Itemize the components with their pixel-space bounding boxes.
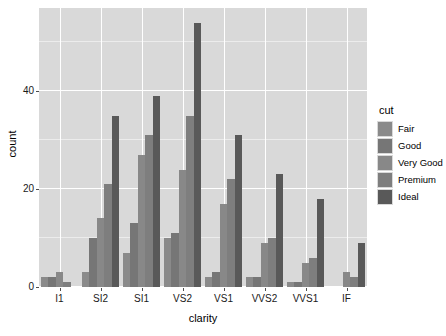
y-axis-tick-label: 20 — [10, 184, 34, 194]
bar — [309, 258, 317, 287]
bar — [63, 282, 71, 287]
legend-item: Very Good — [377, 154, 446, 171]
bar — [276, 174, 284, 287]
legend-swatch-icon — [378, 190, 392, 204]
x-axis-tick-label: IF — [322, 293, 372, 304]
legend-item-label: Fair — [398, 123, 414, 134]
gridline-major-x — [60, 8, 61, 287]
x-axis-tick-mark — [224, 288, 225, 291]
legend-item: Premium — [377, 171, 446, 188]
y-axis-tick-label: 40 — [10, 86, 34, 96]
legend-key — [377, 138, 393, 154]
y-axis-title: count — [6, 114, 18, 174]
legend-items: FairGoodVery GoodPremiumIdeal — [377, 120, 446, 205]
bar — [153, 96, 161, 287]
legend-swatch-icon — [378, 173, 392, 187]
y-axis-tick-mark — [36, 287, 39, 288]
chart-figure: count 02040 I1SI2SI1VS2VS1VVS2VVS1IF cla… — [0, 0, 446, 336]
x-axis-title: clarity — [39, 312, 367, 324]
bar — [205, 277, 213, 287]
bar — [123, 253, 131, 287]
y-axis-tick-label: 0 — [10, 282, 34, 292]
bar — [104, 184, 112, 287]
x-axis-tick-mark — [60, 288, 61, 291]
bar — [294, 282, 302, 287]
bar — [261, 243, 269, 287]
gridline-major-y — [39, 90, 367, 91]
legend-item: Good — [377, 137, 446, 154]
bar — [287, 282, 295, 287]
bar — [227, 179, 235, 287]
legend-swatch-icon — [378, 122, 392, 136]
bar — [253, 277, 261, 287]
legend-title: cut — [379, 104, 446, 116]
legend-item-label: Premium — [398, 174, 436, 185]
bar — [82, 272, 90, 287]
legend-key — [377, 189, 393, 205]
bar — [112, 116, 120, 287]
x-axis-tick-mark — [347, 288, 348, 291]
x-axis-tick-mark — [306, 288, 307, 291]
bar — [179, 170, 187, 287]
legend-key — [377, 121, 393, 137]
bar — [164, 238, 172, 287]
bar — [268, 238, 276, 287]
bar — [235, 135, 243, 287]
x-axis-tick-mark — [142, 288, 143, 291]
gridline-major-y — [39, 188, 367, 189]
legend-key — [377, 172, 393, 188]
bar — [48, 277, 56, 287]
legend-key — [377, 155, 393, 171]
bar — [138, 155, 146, 287]
gridline-major-x — [306, 8, 307, 287]
bar — [212, 272, 220, 287]
bar — [56, 272, 64, 287]
bar — [171, 233, 179, 287]
gridline-major-x — [347, 8, 348, 287]
gridline-minor-y — [39, 139, 367, 140]
bar — [317, 199, 325, 287]
bar — [220, 204, 228, 287]
x-axis-tick-mark — [265, 288, 266, 291]
legend-swatch-icon — [378, 156, 392, 170]
legend: cut FairGoodVery GoodPremiumIdeal — [377, 104, 446, 205]
gridline-minor-y — [39, 41, 367, 42]
legend-item: Fair — [377, 120, 446, 137]
bar — [358, 243, 366, 287]
bar — [41, 277, 49, 287]
legend-swatch-icon — [378, 139, 392, 153]
legend-item: Ideal — [377, 188, 446, 205]
x-axis-tick-mark — [183, 288, 184, 291]
legend-item-label: Ideal — [398, 191, 419, 202]
bar — [186, 116, 194, 287]
legend-item-label: Good — [398, 140, 421, 151]
bar — [343, 272, 351, 287]
plot-panel — [39, 8, 367, 287]
bar — [246, 277, 254, 287]
bar — [302, 263, 310, 287]
bar — [130, 223, 138, 287]
x-axis-tick-mark — [101, 288, 102, 291]
legend-item-label: Very Good — [398, 157, 443, 168]
bar — [350, 277, 358, 287]
bar — [145, 135, 153, 287]
bar — [194, 23, 202, 287]
bar — [89, 238, 97, 287]
bar — [97, 218, 105, 287]
